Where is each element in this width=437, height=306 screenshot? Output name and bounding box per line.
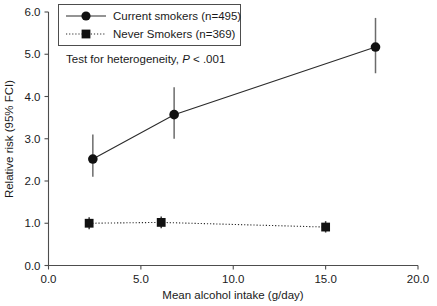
legend-marker-circle-icon	[81, 11, 90, 20]
y-axis-ticks: 0.01.02.03.04.05.06.0	[25, 6, 49, 272]
data-point-marker[interactable]	[157, 218, 166, 227]
x-tick-label: 5.0	[133, 273, 149, 285]
y-tick-label: 4.0	[25, 91, 41, 103]
annotation-prefix: Test for heterogeneity,	[66, 53, 182, 65]
y-tick-label: 1.0	[25, 217, 41, 229]
data-series-layer	[85, 18, 381, 233]
series-never-smokers	[85, 216, 330, 232]
legend: Current smokers (n=495) Never Smokers (n…	[59, 5, 242, 46]
data-point-marker[interactable]	[169, 110, 179, 120]
data-point-marker[interactable]	[371, 42, 381, 52]
heterogeneity-annotation: Test for heterogeneity, P < .001	[66, 53, 225, 65]
chart-page: 0.01.02.03.04.05.06.0 0.05.010.015.020.0…	[0, 0, 437, 306]
x-tick-label: 10.0	[222, 273, 244, 285]
relative-risk-line-chart: 0.01.02.03.04.05.06.0 0.05.010.015.020.0…	[0, 0, 437, 306]
annotation-suffix: < .001	[190, 53, 226, 65]
y-tick-label: 2.0	[25, 175, 41, 187]
y-tick-label: 6.0	[25, 6, 41, 18]
legend-label-current-smokers: Current smokers (n=495)	[113, 10, 241, 22]
axis-lines	[48, 12, 418, 266]
data-point-marker[interactable]	[88, 154, 98, 164]
y-tick-label: 3.0	[25, 133, 41, 145]
x-tick-label: 0.0	[41, 273, 57, 285]
legend-label-never-smokers: Never Smokers (n=369)	[113, 28, 236, 40]
data-point-marker[interactable]	[321, 223, 330, 232]
x-axis-ticks: 0.05.010.015.020.0	[41, 266, 430, 285]
data-point-marker[interactable]	[85, 219, 94, 228]
y-axis-title: Relative risk (95% FCI)	[3, 80, 15, 198]
legend-marker-square-icon	[82, 30, 91, 39]
x-tick-label: 20.0	[407, 273, 429, 285]
y-tick-label: 5.0	[25, 48, 41, 60]
y-tick-label: 0.0	[25, 260, 41, 272]
x-axis-title: Mean alcohol intake (g/day)	[162, 289, 303, 301]
x-tick-label: 15.0	[314, 273, 336, 285]
series-line	[89, 222, 325, 227]
